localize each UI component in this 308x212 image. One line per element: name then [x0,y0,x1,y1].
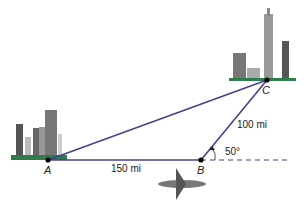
point-b [198,157,203,162]
label-bc-distance: 100 mi [237,119,267,130]
label-c: C [262,84,270,96]
label-b: B [197,164,204,176]
city-c-icon [229,8,296,81]
point-a [45,157,50,162]
diagram-canvas [0,0,308,212]
label-ab-distance: 150 mi [111,163,141,174]
triangle-diagram: A B C 150 mi 100 mi 50° [0,0,308,212]
city-a-icon [11,110,67,160]
label-a: A [44,164,51,176]
point-c [264,77,269,82]
label-angle: 50° [225,146,240,157]
